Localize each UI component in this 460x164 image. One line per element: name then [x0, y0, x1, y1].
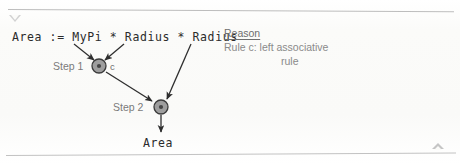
node-step2-operator-dot	[159, 105, 163, 109]
graph-edges	[74, 44, 191, 132]
edge-radius1-to-step1	[105, 44, 124, 60]
reason-heading: Reason	[224, 27, 404, 40]
graph-node-step1[interactable]	[92, 59, 106, 73]
graph-node-step2[interactable]	[154, 100, 168, 114]
step-2-label: Step 2	[113, 101, 143, 113]
node-step1-operator-dot	[97, 64, 101, 68]
step-1-label: Step 1	[53, 60, 83, 72]
reason-block: Reason Rule c: left associative rule	[224, 27, 404, 68]
edge-step1-to-step2	[106, 72, 152, 101]
step-1-result-label: c	[110, 61, 115, 72]
reason-line-2: rule	[224, 54, 404, 68]
edge-mypi-to-step1	[74, 44, 94, 60]
reason-line-1: Rule c: left associative	[224, 40, 404, 54]
edge-radius2-to-step2	[167, 44, 191, 99]
dataflow-graph	[0, 0, 460, 164]
graph-result-label: Area	[143, 136, 173, 150]
diagram-canvas: Area := MyPi * Radius * Radius Step 1 St…	[0, 0, 460, 164]
